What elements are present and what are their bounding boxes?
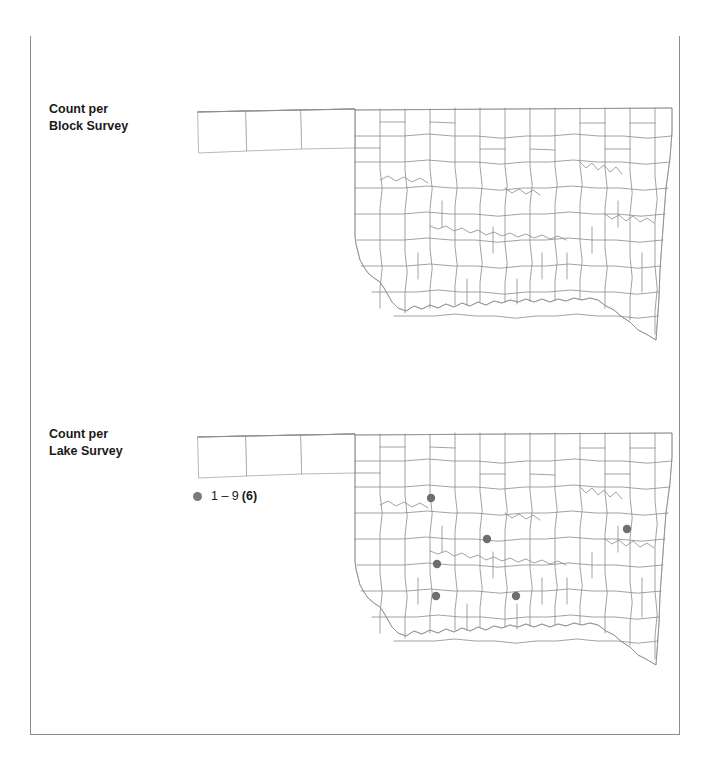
county-boundary bbox=[301, 434, 355, 474]
panel-label-block-survey: Count per Block Survey bbox=[49, 101, 128, 135]
occurrence-dot bbox=[432, 592, 440, 600]
county-boundary bbox=[394, 639, 658, 643]
occurrence-dot bbox=[512, 592, 520, 600]
county-boundary bbox=[198, 111, 247, 153]
occurrence-dot bbox=[433, 560, 441, 568]
oklahoma-county-map-block bbox=[194, 102, 674, 364]
county-boundary bbox=[301, 109, 355, 149]
oklahoma-county-map-lake bbox=[194, 427, 674, 689]
occurrence-dot bbox=[483, 535, 491, 543]
county-boundary bbox=[198, 436, 247, 478]
county-boundary bbox=[394, 314, 658, 318]
county-boundary bbox=[246, 435, 302, 476]
panel-label-lake-survey: Count per Lake Survey bbox=[49, 426, 123, 460]
map-lake-survey bbox=[194, 427, 674, 689]
occurrence-dot bbox=[623, 525, 631, 533]
map-block-survey bbox=[194, 102, 674, 364]
occurrence-dot bbox=[427, 494, 435, 502]
county-boundary bbox=[246, 110, 302, 151]
